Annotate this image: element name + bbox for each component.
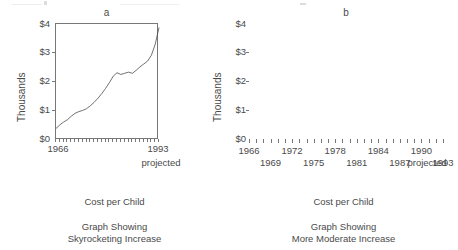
panel-a-projected-note: projected <box>138 157 184 168</box>
panel-a-ytick-label-1: $1 <box>20 104 50 115</box>
panel-b-xtick-mark <box>436 139 437 143</box>
panel-b-xtick-label-1969: 1969 <box>251 157 291 168</box>
panel-b-xtick-mark <box>278 139 279 143</box>
panel-b-xtick-mark <box>414 139 415 143</box>
panel-a-xtick-mark <box>158 139 159 142</box>
panel-b-xtick-mark <box>263 139 264 143</box>
panel-a-xtick-mark <box>82 139 83 142</box>
panel-b-xtick-mark <box>321 139 322 143</box>
panel-b-xtick-mark <box>393 139 394 143</box>
panel-a-letter: a <box>55 7 158 18</box>
panel-b-ytick-label-3: $3 <box>216 46 246 57</box>
panel-a-xtick-mark <box>78 139 79 142</box>
panel-b-ytick-label-4: $4 <box>216 18 246 29</box>
panel-b-ytick-mark <box>246 110 249 111</box>
panel-b-xtick-label-1972: 1972 <box>272 145 312 156</box>
panel-b-xtick-label-1966: 1966 <box>229 145 269 156</box>
panel-a-ytick-label-2: $2 <box>20 75 50 86</box>
panel-a-ytick-label-3: $3 <box>20 46 50 57</box>
panel-b-xtick-label-1984: 1984 <box>358 145 398 156</box>
panel-a-xtick-mark <box>154 139 155 142</box>
panel-a-xtick-mark <box>105 139 106 142</box>
panel-a-xtick-mark <box>112 139 113 142</box>
panel-b-xtick-label-1981: 1981 <box>337 157 377 168</box>
panel-a-xtick-mark <box>63 139 64 142</box>
panel-a-xtick-mark <box>55 139 56 142</box>
panel-a-xtick-mark <box>86 139 87 142</box>
panel-b-xtick-mark <box>292 139 293 143</box>
panel-b-ytick-mark <box>246 52 249 53</box>
panel-b-xtick-mark <box>350 139 351 143</box>
figure-page: a Thousands $4 $3 $2 $1 $0 1966 1993 pro… <box>0 0 458 250</box>
panel-b-xtick-mark <box>421 139 422 143</box>
panel-b-xtick-label-1975: 1975 <box>294 157 334 168</box>
panel-a-xtick-mark <box>120 139 121 142</box>
panel-b-xtick-mark <box>249 139 250 143</box>
panel-b-letter: b <box>249 7 443 18</box>
panel-a-xtick-mark <box>66 139 67 142</box>
panel-b-xtick-mark <box>429 139 430 143</box>
panel-b-xtick-mark <box>256 139 257 143</box>
panel-b-caption-title: Cost per Child <box>229 195 458 208</box>
panel-b-projected-note: projected <box>404 157 450 168</box>
panel-a-xtick-mark <box>116 139 117 142</box>
panel-a-xtick-mark <box>70 139 71 142</box>
panel-a-xtick-label-start: 1966 <box>38 143 78 154</box>
panel-a-xtick-mark <box>143 139 144 142</box>
panel-b-caption-line3: More Moderate Increase <box>229 232 458 245</box>
panel-b-ytick-mark <box>246 81 249 82</box>
panel-a-xtick-mark <box>101 139 102 142</box>
panel-a-line-series <box>56 24 159 140</box>
panel-b-xtick-label-1990: 1990 <box>401 145 441 156</box>
panel-b-ytick-label-2: $2 <box>216 75 246 86</box>
panel-a-xtick-mark <box>135 139 136 142</box>
panel-b-xtick-mark <box>371 139 372 143</box>
panel-b-xtick-mark <box>378 139 379 143</box>
panel-b-xtick-mark <box>400 139 401 143</box>
panel-b-xtick-label-1978: 1978 <box>315 145 355 156</box>
panel-a-xtick-label-end: 1993 <box>138 143 178 154</box>
panel-b-xtick-mark <box>443 139 444 143</box>
panel-a-xtick-mark <box>147 139 148 142</box>
panel-b-xtick-mark <box>357 139 358 143</box>
panel-a-xtick-mark <box>108 139 109 142</box>
panel-a-xtick-mark <box>89 139 90 142</box>
panel-a-caption-line3: Skyrocketing Increase <box>0 232 229 245</box>
panel-b-ytick-label-0: $0 <box>216 133 246 144</box>
panel-b-xtick-mark <box>299 139 300 143</box>
panel-b-xtick-mark <box>335 139 336 143</box>
panel-b-xtick-mark <box>407 139 408 143</box>
panel-b-xtick-mark <box>285 139 286 143</box>
panel-a-xtick-mark <box>124 139 125 142</box>
panel-a-xtick-mark <box>131 139 132 142</box>
scan-edge-artifact <box>0 0 458 7</box>
panel-b-xtick-mark <box>314 139 315 143</box>
panel-a-xtick-mark <box>150 139 151 142</box>
panel-a-xtick-mark <box>97 139 98 142</box>
panel-a-xtick-mark <box>139 139 140 142</box>
panel-a-plot-area <box>55 23 158 139</box>
panel-a-caption-title: Cost per Child <box>0 195 229 208</box>
panel-b-xtick-mark <box>364 139 365 143</box>
panel-a-xtick-mark <box>128 139 129 142</box>
panel-b-ytick-label-1: $1 <box>216 104 246 115</box>
panel-b-xtick-mark <box>386 139 387 143</box>
panel-a-xtick-mark <box>93 139 94 142</box>
panel-a-xtick-mark <box>59 139 60 142</box>
panel-a-xtick-mark <box>74 139 75 142</box>
panel-b-xtick-mark <box>342 139 343 143</box>
panel-b-xtick-mark <box>271 139 272 143</box>
panel-b-xtick-mark <box>307 139 308 143</box>
panel-a-ytick-label-4: $4 <box>20 18 50 29</box>
panel-b-xtick-mark <box>328 139 329 143</box>
